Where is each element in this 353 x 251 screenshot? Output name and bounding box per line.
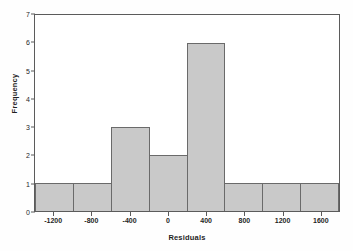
y-tick-label: 3	[0, 124, 30, 131]
y-tick-label: 7	[0, 11, 30, 18]
x-tick-label: 400	[186, 217, 226, 224]
x-tick-mark	[91, 212, 92, 216]
x-tick-mark	[53, 212, 54, 216]
histogram-bar	[262, 183, 301, 211]
x-tick-mark	[206, 212, 207, 216]
y-tick-label: 0	[0, 209, 30, 216]
y-tick-label: 2	[0, 152, 30, 159]
y-tick-label: 6	[0, 39, 30, 46]
histogram-bar	[300, 183, 339, 211]
y-tick-label: 4	[0, 95, 30, 102]
histogram-bar	[73, 183, 112, 211]
bar-series	[35, 15, 339, 211]
histogram-bar	[187, 43, 226, 211]
x-tick-mark	[321, 212, 322, 216]
x-tick-label: -400	[110, 217, 150, 224]
x-tick-label: -1200	[33, 217, 73, 224]
x-tick-label: 800	[224, 217, 264, 224]
x-tick-label: 0	[148, 217, 188, 224]
x-tick-label: -800	[71, 217, 111, 224]
x-tick-mark	[244, 212, 245, 216]
y-tick-label: 5	[0, 67, 30, 74]
histogram-figure: Frequency Residuals 01234567 -1200-800-4…	[0, 0, 353, 251]
histogram-bar	[149, 155, 188, 211]
plot-area	[34, 14, 340, 212]
x-tick-label: 1600	[301, 217, 341, 224]
x-tick-mark	[130, 212, 131, 216]
histogram-bar	[35, 183, 74, 211]
y-tick-label: 1	[0, 180, 30, 187]
histogram-bar	[224, 183, 263, 211]
x-tick-mark	[283, 212, 284, 216]
histogram-bar	[111, 127, 150, 211]
x-axis-label: Residuals	[34, 233, 340, 242]
x-tick-label: 1200	[263, 217, 303, 224]
x-tick-mark	[168, 212, 169, 216]
y-axis-label: Frequency	[10, 54, 19, 134]
